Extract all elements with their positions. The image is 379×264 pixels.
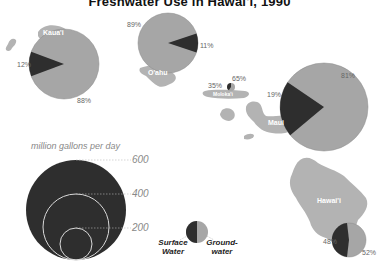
pie-kauai (29, 29, 99, 99)
kauai-surface-pct: 12% (17, 61, 31, 68)
hawaii-surface-pct: 48% (323, 238, 337, 245)
scale-600: 600 (132, 154, 149, 165)
molokai-surface-pct: 35% (208, 82, 222, 89)
label-oahu: O'ahu (148, 69, 168, 76)
size-scale-legend (26, 160, 131, 260)
legend-surface-water: Surface Water (158, 238, 188, 256)
legend-ground-water: Ground- water (205, 238, 239, 256)
maui-surface-pct: 19% (267, 91, 281, 98)
island-kahoolawe (244, 134, 254, 140)
hawaii-ground-pct: 52% (362, 249, 376, 256)
oahu-ground-pct: 89% (127, 21, 141, 28)
scale-400: 400 (132, 188, 149, 199)
map-canvas (0, 0, 379, 264)
scale-200: 200 (132, 222, 149, 233)
label-maui: Maui (268, 119, 284, 126)
label-hawaii: Hawai'i (317, 197, 341, 204)
molokai-ground-pct: 65% (232, 75, 246, 82)
pie-oahu (138, 13, 198, 73)
maui-ground-pct: 81% (341, 72, 355, 79)
label-kauai: Kaua'i (43, 29, 64, 36)
island-niihau (6, 39, 16, 51)
scale-unit-label: million gallons per day (31, 141, 120, 151)
island-lanai (220, 108, 235, 121)
pie-molokai (227, 83, 235, 91)
oahu-surface-pct: 11% (200, 42, 214, 49)
freshwater-map-chart: Freshwater Use in Hawai'i, 1990 (0, 0, 379, 264)
label-molokai: Moloka'i (213, 91, 233, 97)
kauai-ground-pct: 88% (77, 97, 91, 104)
